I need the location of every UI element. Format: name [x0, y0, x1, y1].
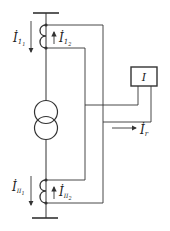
label-I12: İ12	[58, 30, 71, 47]
label-III2: İII2	[58, 184, 72, 201]
circuit-diagram: I İ11 İ12 İII1 İII2 İr	[0, 0, 170, 231]
wire-relay-right	[103, 86, 151, 122]
label-I11: İ11	[12, 30, 25, 47]
diagram-canvas: I İ11 İ12 İII1 İII2 İr	[0, 0, 170, 231]
wire-relay-left	[85, 86, 138, 105]
wire-top-ct-upper	[46, 25, 103, 203]
label-III1: İII1	[11, 179, 25, 196]
relay-label: I	[141, 71, 147, 84]
wire-top-ct-lower	[46, 48, 85, 180]
label-Ir: İr	[139, 122, 149, 138]
power-transformer-icon	[35, 101, 58, 140]
